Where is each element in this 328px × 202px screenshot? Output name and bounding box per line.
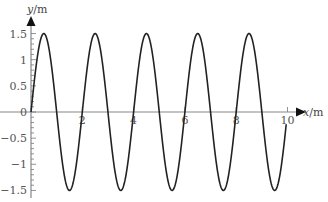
- y-tick-label: −1: [11, 158, 27, 171]
- axes: [0, 16, 306, 198]
- y-tick-label: −0.5: [0, 132, 27, 145]
- y-axis-arrow-icon: [27, 16, 36, 26]
- y-axis-title: y/m: [26, 3, 48, 16]
- y-tick-label: −1.5: [0, 184, 27, 197]
- wave-chart: 1.510.50−0.5−1−1.5246810 y/m x/m: [0, 0, 328, 202]
- x-axis-title: x/m: [303, 106, 324, 119]
- y-tick-label: 0.5: [10, 80, 28, 93]
- y-tick-label: 1: [20, 54, 27, 67]
- x-tick-label: 10: [281, 114, 295, 127]
- y-tick-label: 0: [20, 106, 27, 119]
- y-tick-label: 1.5: [10, 28, 28, 41]
